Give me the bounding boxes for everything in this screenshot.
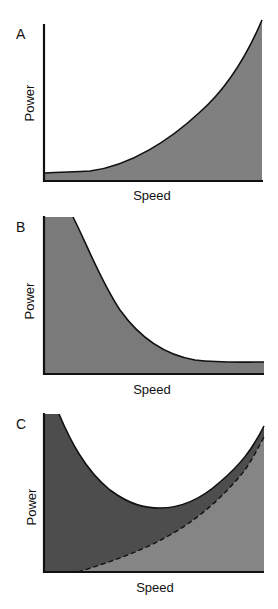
panel-a-y-label: Power — [22, 84, 37, 122]
panel-label-c: C — [16, 416, 26, 432]
panel-label-a: A — [16, 26, 26, 42]
panel-a-area — [45, 20, 262, 181]
figure: A Power Speed B Power Speed C Power Spee… — [0, 0, 278, 609]
panel-b-x-label: Speed — [133, 382, 171, 397]
panel-a-x-label: Speed — [133, 188, 171, 203]
panel-a: A Power Speed — [16, 20, 263, 203]
panel-b-area — [45, 217, 264, 374]
panel-b-y-label: Power — [22, 282, 37, 320]
panel-c-x-label: Speed — [136, 580, 174, 595]
panel-label-b: B — [16, 219, 25, 235]
panel-b: B Power Speed — [16, 216, 264, 397]
panel-c-y-label: Power — [24, 488, 39, 526]
panel-c: C Power Speed — [16, 413, 264, 595]
